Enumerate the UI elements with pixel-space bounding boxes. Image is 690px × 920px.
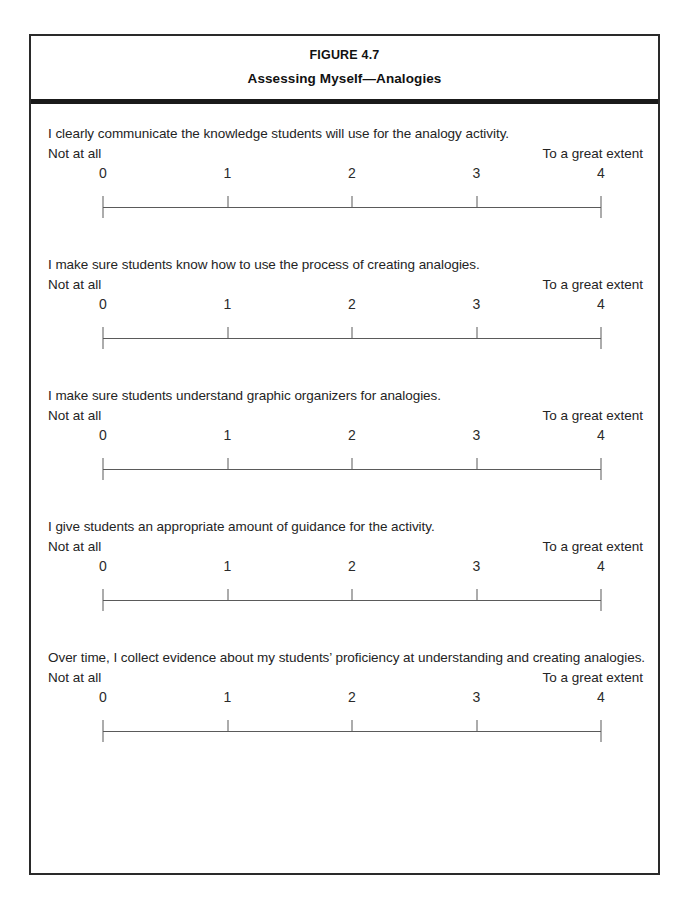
- scale-ruler: [103, 327, 601, 349]
- scale-endpoint-tick[interactable]: [601, 196, 602, 218]
- scale-number[interactable]: 2: [348, 690, 356, 704]
- scale-number-row: 01234: [103, 297, 601, 317]
- anchor-high-label: To a great extent: [542, 670, 643, 685]
- scale-endpoint-tick[interactable]: [601, 458, 602, 480]
- scale-tick[interactable]: [352, 589, 353, 601]
- scale-tick[interactable]: [476, 327, 477, 339]
- scale-endpoint-tick[interactable]: [601, 327, 602, 349]
- rating-scale[interactable]: 01234: [103, 559, 601, 619]
- anchor-high-label: To a great extent: [542, 408, 643, 423]
- rating-scale[interactable]: 01234: [103, 297, 601, 357]
- scale-number[interactable]: 4: [597, 297, 605, 311]
- scale-ruler: [103, 589, 601, 611]
- scale-ruler: [103, 196, 601, 218]
- scale-number[interactable]: 0: [99, 428, 107, 442]
- scale-number[interactable]: 1: [224, 690, 232, 704]
- rating-scale[interactable]: 01234: [103, 166, 601, 226]
- scale-tick[interactable]: [476, 458, 477, 470]
- figure-header: FIGURE 4.7 Assessing Myself—Analogies: [31, 36, 658, 89]
- scale-number[interactable]: 4: [597, 166, 605, 180]
- scale-tick[interactable]: [227, 589, 228, 601]
- scale-number[interactable]: 0: [99, 166, 107, 180]
- scale-number-row: 01234: [103, 166, 601, 186]
- scale-item: I make sure students know how to use the…: [31, 257, 658, 388]
- anchor-low-label: Not at all: [48, 670, 101, 685]
- scale-tick[interactable]: [476, 720, 477, 732]
- scale-tick[interactable]: [476, 196, 477, 208]
- scale-tick[interactable]: [352, 327, 353, 339]
- anchor-low-label: Not at all: [48, 539, 101, 554]
- scale-item: I clearly communicate the knowledge stud…: [31, 126, 658, 257]
- scale-tick[interactable]: [227, 196, 228, 208]
- scale-tick[interactable]: [352, 458, 353, 470]
- scale-number[interactable]: 4: [597, 559, 605, 573]
- scale-number[interactable]: 0: [99, 559, 107, 573]
- scale-number[interactable]: 3: [473, 166, 481, 180]
- scale-number[interactable]: 4: [597, 428, 605, 442]
- anchor-low-label: Not at all: [48, 277, 101, 292]
- scale-item: I make sure students understand graphic …: [31, 388, 658, 519]
- scale-tick[interactable]: [352, 196, 353, 208]
- scale-anchors: Not at allTo a great extent: [48, 277, 643, 294]
- scale-number[interactable]: 0: [99, 690, 107, 704]
- scale-number[interactable]: 2: [348, 559, 356, 573]
- scale-number[interactable]: 1: [224, 297, 232, 311]
- scale-number[interactable]: 3: [473, 559, 481, 573]
- scale-number[interactable]: 4: [597, 690, 605, 704]
- scale-tick[interactable]: [352, 720, 353, 732]
- scale-number[interactable]: 3: [473, 428, 481, 442]
- scale-tick[interactable]: [476, 589, 477, 601]
- figure-box: FIGURE 4.7 Assessing Myself—Analogies I …: [29, 34, 660, 875]
- scale-number[interactable]: 1: [224, 559, 232, 573]
- scale-anchors: Not at allTo a great extent: [48, 670, 643, 687]
- rating-scale[interactable]: 01234: [103, 690, 601, 750]
- assessment-items-list: I clearly communicate the knowledge stud…: [31, 104, 658, 781]
- scale-number-row: 01234: [103, 428, 601, 448]
- scale-number[interactable]: 2: [348, 166, 356, 180]
- scale-endpoint-tick[interactable]: [601, 720, 602, 742]
- question-text: I give students an appropriate amount of…: [48, 519, 435, 534]
- anchor-high-label: To a great extent: [542, 539, 643, 554]
- scale-ruler: [103, 458, 601, 480]
- question-text: I clearly communicate the knowledge stud…: [48, 126, 509, 141]
- scale-number[interactable]: 0: [99, 297, 107, 311]
- scale-anchors: Not at allTo a great extent: [48, 408, 643, 425]
- question-text: I make sure students understand graphic …: [48, 388, 441, 403]
- scale-endpoint-tick[interactable]: [103, 327, 104, 349]
- scale-number[interactable]: 2: [348, 428, 356, 442]
- scale-anchors: Not at allTo a great extent: [48, 539, 643, 556]
- scale-endpoint-tick[interactable]: [103, 720, 104, 742]
- question-text: Over time, I collect evidence about my s…: [48, 650, 645, 665]
- scale-item: Over time, I collect evidence about my s…: [31, 650, 658, 781]
- figure-number: FIGURE 4.7: [31, 46, 658, 65]
- scale-tick[interactable]: [227, 458, 228, 470]
- anchor-low-label: Not at all: [48, 408, 101, 423]
- scale-anchors: Not at allTo a great extent: [48, 146, 643, 163]
- anchor-high-label: To a great extent: [542, 146, 643, 161]
- scale-number-row: 01234: [103, 559, 601, 579]
- figure-title: Assessing Myself—Analogies: [31, 68, 658, 90]
- scale-endpoint-tick[interactable]: [103, 196, 104, 218]
- scale-endpoint-tick[interactable]: [103, 589, 104, 611]
- anchor-high-label: To a great extent: [542, 277, 643, 292]
- anchor-low-label: Not at all: [48, 146, 101, 161]
- rating-scale[interactable]: 01234: [103, 428, 601, 488]
- scale-endpoint-tick[interactable]: [601, 589, 602, 611]
- scale-number[interactable]: 1: [224, 428, 232, 442]
- scale-number[interactable]: 2: [348, 297, 356, 311]
- scale-number-row: 01234: [103, 690, 601, 710]
- scale-item: I give students an appropriate amount of…: [31, 519, 658, 650]
- question-text: I make sure students know how to use the…: [48, 257, 480, 272]
- scale-number[interactable]: 1: [224, 166, 232, 180]
- scale-tick[interactable]: [227, 327, 228, 339]
- scale-number[interactable]: 3: [473, 690, 481, 704]
- scale-number[interactable]: 3: [473, 297, 481, 311]
- scale-tick[interactable]: [227, 720, 228, 732]
- scale-endpoint-tick[interactable]: [103, 458, 104, 480]
- scale-ruler: [103, 720, 601, 742]
